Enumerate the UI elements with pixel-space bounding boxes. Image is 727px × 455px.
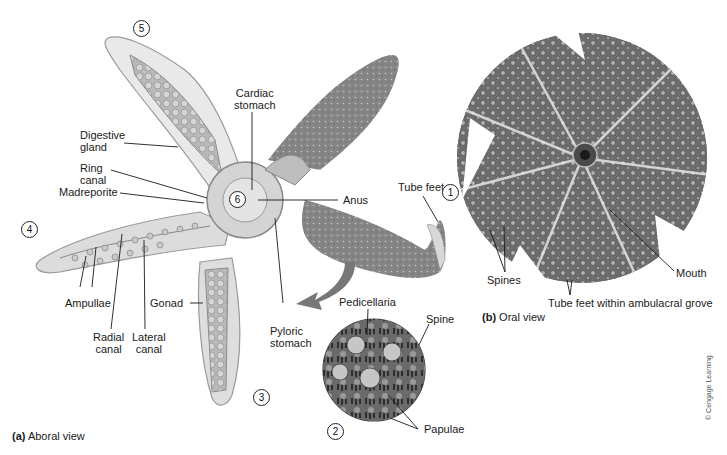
starfish-illustration — [0, 0, 727, 455]
caption-b-letter: (b) — [482, 311, 496, 323]
label-tube-feet-groove: Tube feet within ambulacral grove — [548, 297, 713, 309]
marker-6: 6 — [229, 191, 246, 208]
skin-magnification — [320, 315, 430, 425]
caption-oral-view: (b) Oral view — [482, 311, 545, 323]
label-papulae: Papulae — [424, 423, 464, 435]
label-spines: Spines — [487, 274, 521, 286]
caption-a-letter: (a) — [12, 430, 25, 442]
marker-3: 3 — [253, 389, 270, 406]
label-spine: Spine — [426, 313, 454, 325]
label-ring-canal: Ring canal — [80, 162, 106, 186]
caption-b-title: Oral view — [499, 311, 545, 323]
label-gonad: Gonad — [150, 297, 183, 309]
caption-aboral-view: (a) Aboral view — [12, 430, 85, 442]
marker-4: 4 — [21, 221, 38, 238]
marker-2: 2 — [327, 423, 344, 440]
label-pyloric-stomach: Pyloric stomach — [270, 325, 312, 349]
label-madreporite: Madreporite — [59, 186, 118, 198]
label-pedicellaria: Pedicellaria — [339, 296, 396, 308]
label-radial-canal: Radial canal — [93, 331, 124, 355]
marker-5: 5 — [133, 20, 150, 37]
marker-1: 1 — [442, 184, 459, 201]
caption-a-title: Aboral view — [28, 430, 85, 442]
label-digestive-gland: Digestive gland — [80, 129, 125, 153]
label-anus: Anus — [343, 194, 368, 206]
label-ampullae: Ampullae — [65, 297, 111, 309]
copyright-credit: © Cengage Learning — [705, 355, 712, 420]
oral-view-image — [455, 30, 715, 290]
label-mouth: Mouth — [676, 267, 707, 279]
label-cardiac-stomach: Cardiac stomach — [234, 87, 276, 111]
label-lateral-canal: Lateral canal — [132, 331, 166, 355]
label-tube-feet: Tube feet — [398, 181, 444, 193]
